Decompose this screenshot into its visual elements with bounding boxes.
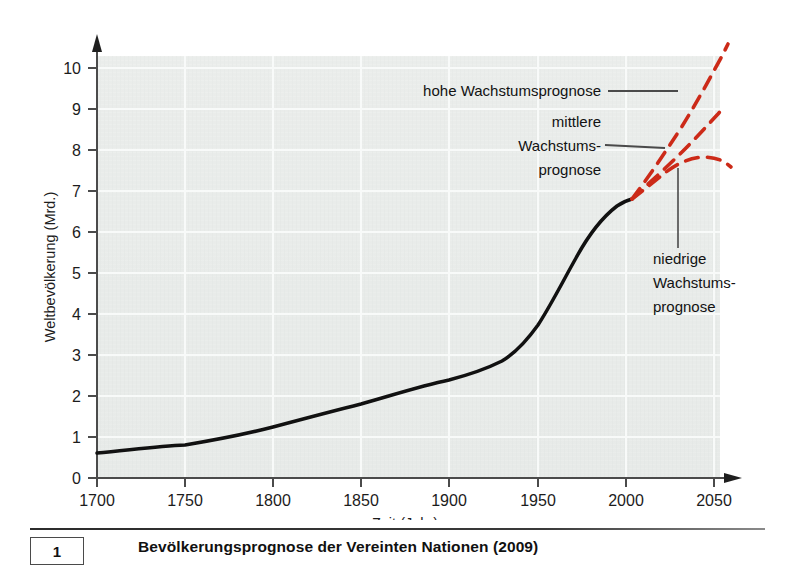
y-axis-title: Weltbevölkerung (Mrd.) bbox=[42, 192, 58, 342]
y-tick-label: 10 bbox=[63, 60, 81, 77]
y-tick-label: 4 bbox=[72, 306, 81, 323]
y-axis-tick-labels: 0 1 2 3 4 5 6 7 8 9 10 bbox=[63, 60, 81, 487]
annotation-high-growth: hohe Wachstumsprognose bbox=[423, 82, 601, 99]
x-axis-tick-labels: 1700 1750 1800 1850 1900 1950 2000 2050 bbox=[79, 492, 732, 509]
x-tick-label: 1850 bbox=[343, 492, 379, 509]
annotation-low-growth-line3: prognose bbox=[653, 298, 716, 315]
annotation-low-growth: niedrige Wachstums- prognose bbox=[653, 250, 736, 315]
figure-population-forecast: 0 1 2 3 4 5 6 7 8 9 10 bbox=[0, 0, 795, 582]
figure-number-badge: 1 bbox=[30, 537, 84, 565]
chart-area: 0 1 2 3 4 5 6 7 8 9 10 bbox=[0, 0, 795, 520]
x-tick-label: 1900 bbox=[431, 492, 467, 509]
annotation-mid-growth-line1: mittlere bbox=[552, 113, 601, 130]
x-axis-title: Zeit (Jahr) bbox=[372, 515, 438, 520]
y-tick-label: 7 bbox=[72, 183, 81, 200]
y-tick-label: 6 bbox=[72, 224, 81, 241]
annotation-mid-growth-line2: Wachstums- bbox=[518, 137, 601, 154]
x-tick-label: 2050 bbox=[696, 492, 732, 509]
y-tick-label: 1 bbox=[72, 429, 81, 446]
y-tick-label: 5 bbox=[72, 265, 81, 282]
x-tick-label: 1950 bbox=[520, 492, 556, 509]
x-tick-label: 2000 bbox=[608, 492, 644, 509]
figure-caption: 1 Bevölkerungsprognose der Vereinten Nat… bbox=[30, 528, 765, 576]
x-tick-label: 1800 bbox=[255, 492, 291, 509]
y-axis-ticks bbox=[88, 68, 97, 478]
y-tick-label: 8 bbox=[72, 142, 81, 159]
y-tick-label: 2 bbox=[72, 388, 81, 405]
annotation-low-growth-line2: Wachstums- bbox=[653, 274, 736, 291]
figure-caption-text: Bevölkerungsprognose der Vereinten Natio… bbox=[138, 538, 538, 556]
annotation-low-growth-line1: niedrige bbox=[653, 250, 706, 267]
x-tick-label: 1700 bbox=[79, 492, 115, 509]
population-line-chart: 0 1 2 3 4 5 6 7 8 9 10 bbox=[0, 0, 795, 520]
y-tick-label: 3 bbox=[72, 347, 81, 364]
x-axis-ticks bbox=[97, 478, 714, 487]
annotation-mid-growth-line3: prognose bbox=[538, 161, 601, 178]
y-tick-label: 9 bbox=[72, 101, 81, 118]
x-tick-label: 1750 bbox=[167, 492, 203, 509]
y-tick-label: 0 bbox=[72, 470, 81, 487]
caption-divider bbox=[30, 528, 765, 530]
